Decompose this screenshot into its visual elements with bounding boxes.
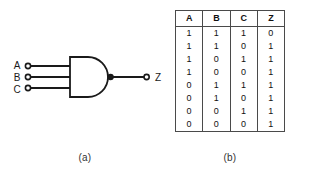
output-terminal-z bbox=[144, 74, 149, 79]
nand-gate-schematic: A B C Z bbox=[8, 50, 168, 110]
cell-a: 0 bbox=[176, 79, 203, 92]
cell-z: 1 bbox=[257, 92, 284, 105]
table-row: 1 0 1 1 bbox=[176, 53, 285, 66]
cell-c: 1 bbox=[230, 53, 257, 66]
cell-a: 0 bbox=[176, 92, 203, 105]
cell-a: 0 bbox=[176, 105, 203, 118]
cell-b: 0 bbox=[203, 118, 230, 132]
truth-table: A B C Z 1 1 1 0 1 1 0 1 1 0 1 bbox=[175, 10, 285, 132]
caption-b: (b) bbox=[175, 152, 285, 163]
cell-z: 1 bbox=[257, 66, 284, 79]
truth-table-body: 1 1 1 0 1 1 0 1 1 0 1 1 1 0 0 1 bbox=[176, 27, 285, 132]
cell-b: 1 bbox=[203, 40, 230, 53]
table-row: 0 0 1 1 bbox=[176, 105, 285, 118]
cell-z: 0 bbox=[257, 27, 284, 41]
column-header-b: B bbox=[203, 11, 230, 27]
input-label-b: B bbox=[14, 72, 21, 83]
and-gate-body bbox=[70, 57, 108, 97]
cell-a: 1 bbox=[176, 27, 203, 41]
column-header-c: C bbox=[230, 11, 257, 27]
table-row: 1 1 1 0 bbox=[176, 27, 285, 41]
cell-c: 0 bbox=[230, 40, 257, 53]
table-header-row: A B C Z bbox=[176, 11, 285, 27]
input-label-a: A bbox=[14, 60, 21, 71]
cell-c: 0 bbox=[230, 66, 257, 79]
input-terminal-c bbox=[25, 85, 30, 90]
cell-c: 1 bbox=[230, 105, 257, 118]
input-label-c: C bbox=[13, 84, 20, 95]
cell-b: 1 bbox=[203, 27, 230, 41]
cell-z: 1 bbox=[257, 40, 284, 53]
cell-c: 1 bbox=[230, 27, 257, 41]
cell-z: 1 bbox=[257, 53, 284, 66]
cell-a: 1 bbox=[176, 53, 203, 66]
cell-b: 0 bbox=[203, 105, 230, 118]
cell-b: 1 bbox=[203, 92, 230, 105]
input-terminal-a bbox=[25, 63, 30, 68]
cell-b: 1 bbox=[203, 79, 230, 92]
column-header-a: A bbox=[176, 11, 203, 27]
cell-c: 0 bbox=[230, 118, 257, 132]
cell-c: 1 bbox=[230, 79, 257, 92]
cell-a: 1 bbox=[176, 40, 203, 53]
cell-c: 0 bbox=[230, 92, 257, 105]
inversion-bubble-icon bbox=[108, 74, 113, 79]
table-row: 1 0 0 1 bbox=[176, 66, 285, 79]
output-label-z: Z bbox=[155, 72, 161, 83]
table-row: 0 0 0 1 bbox=[176, 118, 285, 132]
cell-a: 1 bbox=[176, 66, 203, 79]
caption-a: (a) bbox=[0, 152, 170, 163]
cell-z: 1 bbox=[257, 118, 284, 132]
table-row: 0 1 1 1 bbox=[176, 79, 285, 92]
cell-z: 1 bbox=[257, 105, 284, 118]
cell-z: 1 bbox=[257, 79, 284, 92]
column-header-z: Z bbox=[257, 11, 284, 27]
table-row: 1 1 0 1 bbox=[176, 40, 285, 53]
cell-b: 0 bbox=[203, 66, 230, 79]
table-row: 0 1 0 1 bbox=[176, 92, 285, 105]
input-terminal-b bbox=[25, 74, 30, 79]
cell-b: 0 bbox=[203, 53, 230, 66]
cell-a: 0 bbox=[176, 118, 203, 132]
truth-table-container: A B C Z 1 1 1 0 1 1 0 1 1 0 1 bbox=[175, 10, 285, 132]
